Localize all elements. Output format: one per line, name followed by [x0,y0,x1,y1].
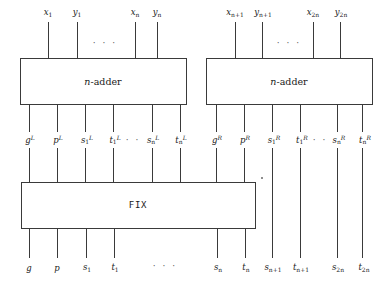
input-label-y2n: y2n [335,8,348,17]
input-label-y1: y1 [73,8,82,17]
output-label-sn: sn [214,263,222,272]
signal-label-pL: pL [53,135,62,145]
signal-label-s1R: s1R [268,135,281,146]
top-right-ellipsis: · · · [277,38,301,48]
left-adder-label-suffix: -adder [90,76,121,87]
signal-label-gL: gL [25,135,34,145]
output-label-s2n: s2n [332,263,344,272]
output-label-sn1: sn+1 [264,263,281,272]
right-adder-label: n-adder [270,76,307,87]
input-label-yn1: yn+1 [254,8,272,17]
input-label-xn: xn [131,8,140,17]
output-label-s1: s1 [83,263,91,272]
signal-label-s1L: s1L [81,135,93,146]
output-label-g: g [26,264,31,273]
top-left-ellipsis: · · · [93,38,117,48]
input-label-xn1: xn+1 [226,8,244,17]
input-label-x1: x1 [44,8,53,17]
output-label-p: p [54,264,59,273]
fix-box-label: FIX [129,200,148,210]
separator-dot [261,177,263,179]
input-label-yn: yn [153,8,162,17]
diagram-canvas: n-adder n-adder FIX x1 y1 xn yn xn+1 yn+… [0,0,390,289]
signal-label-tnL: tnL [175,135,186,146]
mid-right-ellipsis: · · [313,135,328,145]
signal-label-pR: pR [240,135,250,145]
signal-label-t1L: t1L [109,135,120,146]
input-label-x2n: x2n [307,8,319,17]
output-label-t2n: t2n [358,263,369,272]
signal-label-gR: gR [212,135,222,145]
right-adder-label-suffix: -adder [276,76,307,87]
signal-label-snR: snR [333,135,346,146]
signal-label-tnR: tnR [359,135,371,146]
left-adder-label: n-adder [84,76,121,87]
output-label-tn: tn [242,263,249,272]
output-label-tn1: tn+1 [293,263,309,272]
mid-left-ellipsis: · · [126,135,141,145]
signal-label-t1R: t1R [296,135,308,146]
signal-label-snL: snL [147,135,159,146]
bottom-ellipsis: · · · [153,261,177,271]
output-label-t1: t1 [111,263,118,272]
